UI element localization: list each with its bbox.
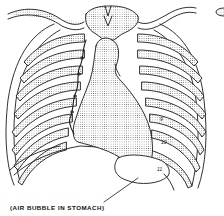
- rib-label-11: 11: [157, 166, 162, 172]
- rib-label-9: 9: [160, 116, 163, 122]
- ribs-left: [12, 34, 84, 185]
- leader-line: [104, 178, 138, 202]
- caption-air-bubble: (AIR BUBBLE IN STOMACH): [10, 204, 105, 211]
- partial-structure-edge: [216, 8, 224, 16]
- rib-cage-diagram: [0, 0, 224, 216]
- clavicle-left: [8, 9, 84, 30]
- rib-label-10: 10: [161, 139, 167, 145]
- clavicle-right: [138, 7, 196, 29]
- sternum: [85, 6, 138, 40]
